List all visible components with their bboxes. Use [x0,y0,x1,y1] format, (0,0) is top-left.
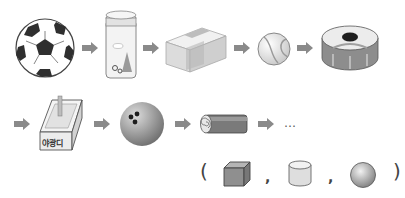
cylinder-icon[interactable] [287,160,313,188]
ellipsis: … [284,117,297,129]
candy-box-label: 야광디 [42,137,63,148]
arrow-right-icon [82,42,98,54]
separator-comma: , [328,170,333,184]
arrow-right-icon [14,118,30,130]
open-paren: ( [200,161,208,181]
bowling-ball-icon [118,100,166,148]
arrow-right-icon [258,118,274,130]
rolled-log-icon [199,113,251,135]
cube-icon[interactable] [222,160,252,188]
close-paren: ) [393,161,401,181]
arrow-right-icon [297,42,313,54]
marble-icon [256,31,292,67]
arrow-right-icon [94,118,110,130]
arrow-right-icon [143,42,159,54]
separator-comma: , [265,170,270,184]
tape-roll-icon [319,22,381,74]
jar-icon [104,10,138,82]
arrow-right-icon [175,118,191,130]
arrow-right-icon [234,42,250,54]
eraser-icon [164,24,228,74]
candy-box: 야광디 [36,94,86,152]
soccer-ball-icon [14,17,76,79]
sphere-icon[interactable] [349,161,377,189]
